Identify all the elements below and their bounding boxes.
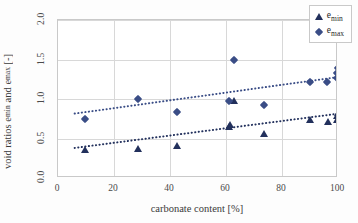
data-point-e_min xyxy=(134,145,142,152)
data-point-e_min xyxy=(324,118,332,125)
legend-label-emin-sub: min xyxy=(331,14,343,23)
x-tick-label: 80 xyxy=(265,183,297,193)
e_min-trend xyxy=(75,114,336,148)
y-tick-label: 0.5 xyxy=(36,125,46,151)
legend-label-emax: emax xyxy=(327,25,344,38)
chart-figure: void ratios emin and emax [-] 0.00.51.01… xyxy=(0,0,358,223)
data-point-e_min xyxy=(173,142,181,149)
e_max-trend xyxy=(75,77,336,114)
chart-legend: emin emax xyxy=(309,5,352,43)
trendlines xyxy=(58,20,336,176)
x-tick-label: 0 xyxy=(41,183,73,193)
y-tick-label: 2.0 xyxy=(36,6,46,32)
data-point-e_min xyxy=(260,130,268,137)
triangle-marker-icon xyxy=(315,13,323,20)
legend-label-emin: emin xyxy=(327,10,343,23)
y-axis-label: void ratios emin and emax [-] xyxy=(2,0,13,223)
data-point-e_min xyxy=(334,109,337,116)
data-point-e_min xyxy=(81,146,89,153)
y-tick-label: 1.0 xyxy=(36,85,46,111)
x-axis-label: carbonate content [%] xyxy=(57,203,337,214)
diamond-marker-icon xyxy=(315,27,323,35)
x-tick-label: 40 xyxy=(153,183,185,193)
data-point-e_min xyxy=(226,121,234,128)
x-tick-label: 60 xyxy=(209,183,241,193)
legend-label-emax-sub: max xyxy=(331,29,344,38)
x-tick-label: 20 xyxy=(97,183,129,193)
legend-item-emax: emax xyxy=(315,24,344,39)
y-tick-label: 1.5 xyxy=(36,46,46,72)
plot-area xyxy=(57,19,337,177)
y-axis-label-sub-min: min xyxy=(3,105,12,117)
legend-item-emin: emin xyxy=(315,9,344,24)
x-tick-label: 100 xyxy=(321,183,353,193)
data-point-e_min xyxy=(306,116,314,123)
y-axis-label-sub-max: max xyxy=(3,67,12,80)
